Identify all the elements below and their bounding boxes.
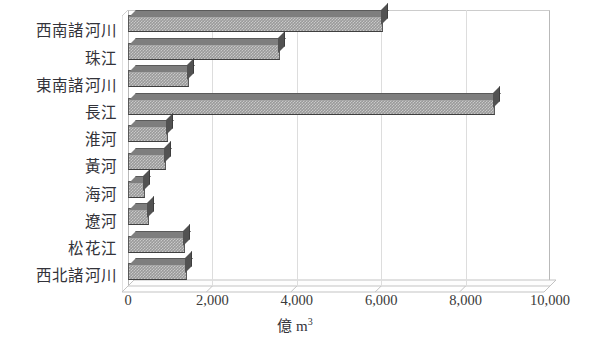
- bar-zhujiang: [128, 43, 280, 60]
- bar-dongnanzhuhechuan: [128, 70, 189, 87]
- bar-row: [128, 148, 550, 176]
- bar-row: [128, 65, 550, 93]
- bar-row: [128, 120, 550, 148]
- category-label: 松花江: [0, 241, 122, 257]
- value-axis-labels: 0 2,000 4,000 6,000 8,000 10,000: [122, 292, 574, 312]
- bar-chart: 西南諸河川 珠江 東南諸河川 長江 淮河 黃河 海河 遼河 松花江 西北諸河川: [0, 0, 590, 346]
- plot-area: [122, 10, 562, 300]
- x-axis-title-superscript: 3: [308, 316, 313, 327]
- bar-row: [128, 93, 550, 121]
- category-label: 長江: [0, 105, 122, 121]
- x-axis-title: 億 m3: [0, 314, 590, 335]
- category-label: 淮河: [0, 132, 122, 148]
- bar-row: [128, 10, 550, 38]
- x-tick-label: 4,000: [280, 292, 313, 309]
- x-tick-label: 8,000: [449, 292, 482, 309]
- x-tick-label: 0: [124, 292, 131, 309]
- bar-row: [128, 258, 550, 286]
- x-tick-label: 2,000: [196, 292, 229, 309]
- bar-xinanzhuhechuan: [128, 15, 383, 32]
- category-label: 東南諸河川: [0, 78, 122, 94]
- category-axis-labels: 西南諸河川 珠江 東南諸河川 長江 淮河 黃河 海河 遼河 松花江 西北諸河川: [0, 18, 122, 290]
- bar-huanghe: [128, 153, 166, 170]
- category-label: 遼河: [0, 214, 122, 230]
- category-label: 海河: [0, 187, 122, 203]
- bar-row: [128, 176, 550, 204]
- category-label: 黃河: [0, 159, 122, 175]
- x-tick-label: 10,000: [530, 292, 570, 309]
- bar-haihe: [128, 181, 145, 198]
- category-label: 珠江: [0, 51, 122, 67]
- category-label: 西北諸河川: [0, 268, 122, 284]
- bar-series: [128, 10, 550, 286]
- x-axis-title-text: 億 m: [277, 318, 307, 334]
- bar-huaihe: [128, 125, 168, 142]
- bar-liaohe: [128, 208, 149, 225]
- category-label: 西南諸河川: [0, 23, 122, 39]
- bar-xibeizhuhechuan: [128, 263, 187, 280]
- bar-songhuajiang: [128, 236, 185, 253]
- bar-changjiang: [128, 98, 495, 115]
- bar-row: [128, 203, 550, 231]
- x-tick-label: 6,000: [365, 292, 398, 309]
